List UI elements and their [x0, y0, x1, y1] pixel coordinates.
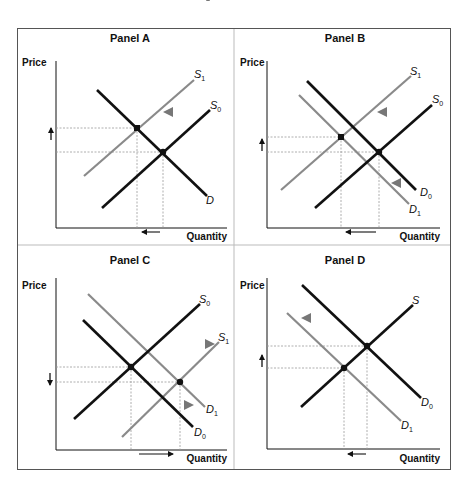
panel-a-label-d: D — [206, 194, 214, 206]
panel-d-equilibrium-new — [341, 365, 347, 371]
panel-c-supply-s0 — [74, 304, 200, 419]
panel-a-guides — [56, 128, 163, 228]
panel-b-label-s1: S1 — [410, 65, 421, 79]
panel-a-equilibrium-initial — [160, 149, 166, 155]
panel-b: Panel B Price Quantity S1 S0 D0 D1 — [240, 32, 443, 242]
panel-b-y-label: Price — [240, 57, 265, 68]
panel-c-label-s1: S1 — [218, 331, 229, 345]
panel-c-equilibrium-initial — [128, 364, 134, 370]
panel-b-equilibrium-initial — [376, 149, 382, 155]
panel-c-x-label: Quantity — [186, 453, 227, 464]
panel-c-label-s0: S0 — [199, 293, 210, 307]
panel-a-title: Panel A — [110, 32, 150, 44]
panel-c-title: Panel C — [110, 254, 150, 266]
panel-d-label-d1: D1 — [401, 419, 413, 433]
panel-d-x-label: Quantity — [399, 453, 440, 464]
panel-a-x-label: Quantity — [186, 231, 227, 242]
panel-c-supply-s1 — [122, 342, 219, 437]
panel-c-demand-d0 — [83, 320, 193, 427]
panel-d-y-label: Price — [240, 280, 265, 291]
panel-a-label-s1: S1 — [194, 68, 205, 82]
panel-a-supply-s0 — [102, 110, 210, 208]
panel-c-label-d1: D1 — [206, 403, 218, 417]
panel-b-guides — [267, 137, 379, 228]
panel-b-label-s0: S0 — [432, 93, 443, 107]
panel-b-title: Panel B — [325, 32, 365, 44]
panel-b-equilibrium-new — [338, 134, 344, 140]
panel-b-label-d0: D0 — [420, 186, 432, 200]
panel-b-label-d1: D1 — [409, 203, 421, 217]
panel-d: Panel D Price Quantity S D0 D1 — [240, 254, 440, 464]
panel-d-supply-s — [301, 305, 413, 407]
panel-a-label-s0: S0 — [210, 99, 221, 113]
panel-c-y-label: Price — [22, 280, 47, 291]
panel-b-supply-s0 — [315, 105, 432, 208]
panel-c: Panel C Price Quantity S0 S1 D1 D0 — [22, 254, 229, 464]
panel-b-supply-s1 — [281, 76, 411, 190]
panel-d-label-d0: D0 — [421, 396, 433, 410]
panel-a-demand-d — [97, 90, 207, 196]
panel-d-title: Panel D — [325, 254, 365, 266]
supply-demand-figure: Panel A Price Quantity S1 S0 D Panel B P… — [0, 0, 468, 486]
panel-c-label-d0: D0 — [194, 426, 206, 440]
panel-a-y-label: Price — [22, 57, 47, 68]
panel-b-x-label: Quantity — [399, 231, 440, 242]
panel-d-equilibrium-initial — [364, 343, 370, 349]
panel-a: Panel A Price Quantity S1 S0 D — [22, 32, 227, 242]
panel-d-label-s: S — [412, 294, 420, 306]
panel-b-demand-d0 — [307, 81, 416, 190]
panel-d-demand-d0 — [302, 285, 421, 398]
panel-a-equilibrium-new — [134, 125, 140, 131]
panel-c-equilibrium-new — [177, 379, 183, 385]
